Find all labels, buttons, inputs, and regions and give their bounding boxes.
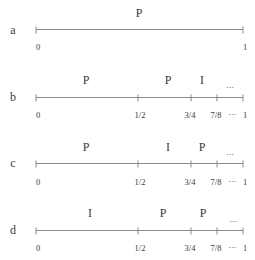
tick-seven-eighths — [217, 94, 218, 101]
tick-0 — [36, 94, 37, 101]
segment-label: P — [83, 74, 90, 86]
tick-three-quarters — [191, 94, 192, 101]
segment-label: I — [88, 207, 92, 219]
tick-label: 1 — [243, 178, 247, 187]
tick-three-quarters — [191, 227, 192, 234]
tick-1 — [243, 160, 244, 167]
tick-label-ellipsis: ··· — [228, 177, 236, 186]
tick-label: 1 — [243, 111, 247, 120]
row-label: a — [10, 24, 15, 36]
interval-line — [36, 163, 243, 164]
tick-label: 1 — [243, 43, 247, 52]
interval-line — [36, 230, 243, 231]
tick-label: 1/2 — [135, 111, 146, 120]
tick-half — [138, 94, 139, 101]
tick-label: 7/8 — [211, 111, 222, 120]
row-label: c — [10, 157, 15, 169]
segment-label: P — [83, 141, 90, 153]
tick-label: 7/8 — [211, 244, 222, 253]
tick-label-ellipsis: ··· — [228, 110, 236, 119]
tick-0 — [36, 227, 37, 234]
tick-0 — [36, 160, 37, 167]
segment-label: P — [136, 7, 143, 19]
segment-label: P — [200, 207, 207, 219]
tick-label: 0 — [36, 178, 40, 187]
ellipsis: ··· — [229, 217, 237, 226]
tick-label: 1/2 — [135, 178, 146, 187]
tick-half — [138, 160, 139, 167]
segment-label: P — [160, 207, 167, 219]
tick-0 — [36, 26, 37, 33]
tick-label: 0 — [36, 43, 40, 52]
tick-1 — [243, 26, 244, 33]
segment-label: I — [200, 74, 204, 86]
tick-label: 3/4 — [185, 111, 196, 120]
tick-seven-eighths — [217, 160, 218, 167]
tick-half — [138, 227, 139, 234]
ellipsis: ··· — [226, 150, 234, 159]
tick-label: 0 — [36, 111, 40, 120]
interval-line — [36, 29, 243, 30]
tick-label: 3/4 — [185, 244, 196, 253]
row-label: b — [10, 91, 16, 103]
segment-label: P — [199, 141, 206, 153]
tick-label: 1 — [243, 244, 247, 253]
tick-label: 1/2 — [135, 244, 146, 253]
tick-label: 7/8 — [211, 178, 222, 187]
tick-label: 0 — [36, 244, 40, 253]
tick-label-ellipsis: ··· — [228, 243, 236, 252]
segment-label: I — [166, 141, 170, 153]
row-label: d — [10, 224, 16, 236]
segment-label: P — [165, 74, 172, 86]
tick-1 — [243, 227, 244, 234]
tick-1 — [243, 94, 244, 101]
tick-seven-eighths — [217, 227, 218, 234]
tick-three-quarters — [191, 160, 192, 167]
tick-label: 3/4 — [185, 178, 196, 187]
interval-line — [36, 97, 243, 98]
ellipsis: ··· — [226, 83, 234, 92]
